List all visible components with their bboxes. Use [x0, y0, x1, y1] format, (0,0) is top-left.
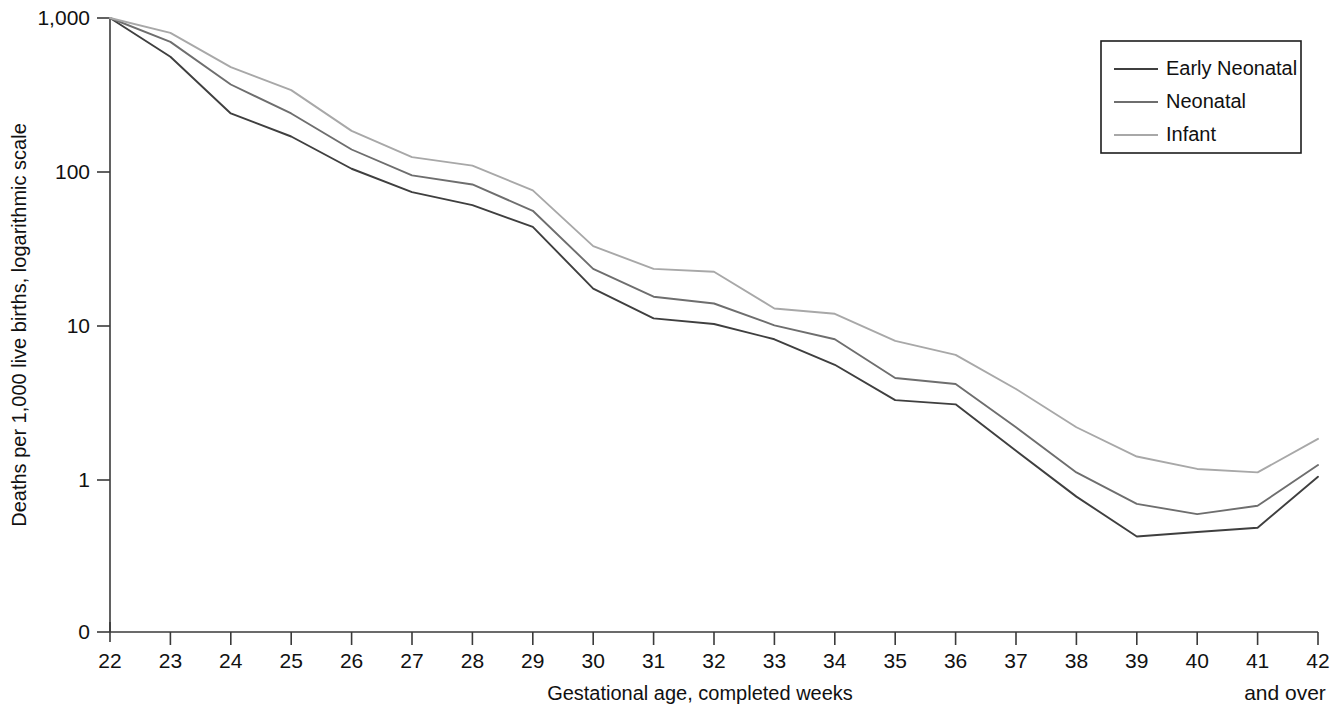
gestational-age-mortality-chart: 1,0001001010 Deaths per 1,000 live birth… — [0, 0, 1331, 717]
x-tick-label: 42 — [1306, 649, 1329, 672]
x-axis-group: 2223242526272829303132333435363738394041… — [98, 622, 1329, 704]
x-tick-group: 2223242526272829303132333435363738394041… — [98, 622, 1329, 672]
x-tick-label: 40 — [1186, 649, 1209, 672]
legend: Early NeonatalNeonatalInfant — [1101, 41, 1301, 153]
y-tick-label: 1 — [78, 468, 90, 491]
x-tick-label: 24 — [219, 649, 243, 672]
x-tick-label: 37 — [1004, 649, 1027, 672]
x-tick-label: 33 — [763, 649, 786, 672]
legend-label-neonatal: Neonatal — [1166, 90, 1246, 112]
x-tick-label: 27 — [400, 649, 423, 672]
x-tick-label: 35 — [884, 649, 907, 672]
legend-label-infant: Infant — [1166, 123, 1216, 145]
y-tick-label: 0 — [78, 620, 90, 643]
x-tick-label: 30 — [582, 649, 605, 672]
x-axis-overflow-note: and over — [1244, 681, 1326, 704]
x-tick-label: 36 — [944, 649, 967, 672]
y-tick-group: 1,0001001010 — [37, 6, 110, 643]
x-tick-label: 39 — [1125, 649, 1148, 672]
y-tick-label: 10 — [67, 314, 90, 337]
x-tick-label: 22 — [98, 649, 121, 672]
x-tick-label: 34 — [823, 649, 847, 672]
y-tick-label: 100 — [55, 160, 90, 183]
chart-canvas: 1,0001001010 Deaths per 1,000 live birth… — [0, 0, 1331, 717]
x-tick-label: 31 — [642, 649, 665, 672]
x-tick-label: 32 — [702, 649, 725, 672]
x-tick-label: 26 — [340, 649, 363, 672]
x-tick-label: 23 — [159, 649, 182, 672]
x-tick-label: 29 — [521, 649, 544, 672]
y-axis-group: 1,0001001010 Deaths per 1,000 live birth… — [8, 6, 110, 643]
x-tick-label: 25 — [280, 649, 303, 672]
x-tick-label: 41 — [1246, 649, 1269, 672]
x-tick-label: 28 — [461, 649, 484, 672]
y-axis-title: Deaths per 1,000 live births, logarithmi… — [8, 123, 30, 527]
legend-label-early-neonatal: Early Neonatal — [1166, 57, 1297, 79]
x-axis-title: Gestational age, completed weeks — [547, 682, 853, 704]
x-tick-label: 38 — [1065, 649, 1088, 672]
y-tick-label: 1,000 — [37, 6, 90, 29]
